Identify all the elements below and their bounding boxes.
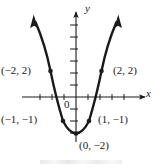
data-point-2-2 [99,69,104,74]
data-point-neg2-2 [48,69,53,74]
data-point-1-neg1 [87,119,92,124]
point-label-1-neg1: (1, −1) [98,114,128,125]
data-point-neg1-neg1 [61,119,66,124]
origin-label: 0 [64,99,70,110]
y-axis-ticks [70,25,78,133]
parabola-figure: (−2, 2) (−1, −1) (0, −2) (1, −1) (2, 2) … [0,0,159,167]
y-axis-label: y [85,3,90,14]
point-label-neg2-2: (−2, 2) [1,65,31,76]
point-label-neg1-neg1: (−1, −1) [1,114,37,125]
point-label-0-neg2: (0, −2) [79,140,109,151]
point-label-2-2: (2, 2) [113,65,137,76]
clipped-caption-strip [40,160,122,164]
data-point-0-neg2 [74,131,79,136]
x-axis-label: x [146,88,151,99]
